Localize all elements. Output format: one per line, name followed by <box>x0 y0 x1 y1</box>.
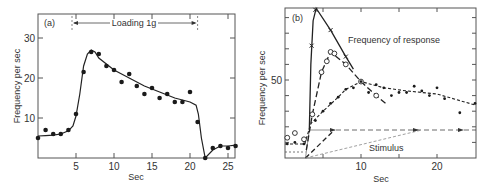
loading-label: Loading 1g <box>112 18 157 28</box>
x-axis-title-b: Sec <box>373 174 389 184</box>
svg-text:20: 20 <box>184 161 196 172</box>
svg-text:25: 25 <box>222 161 234 172</box>
chart-panel-a: 510152025102030 (a) Loading 1g Sec Frequ… <box>12 14 238 182</box>
panel-label-b: (b) <box>292 13 303 23</box>
svg-text:5: 5 <box>73 161 79 172</box>
fitted-curve-a <box>38 50 236 158</box>
loading-annotation: Loading 1g <box>72 16 198 30</box>
svg-text:10: 10 <box>108 161 120 172</box>
y-axis-title-a: Frequency per sec <box>12 48 22 123</box>
response-label: Frequency of response <box>348 35 440 45</box>
svg-text:20: 20 <box>431 161 443 172</box>
data-points-a <box>36 50 238 161</box>
svg-text:10: 10 <box>24 113 36 124</box>
tick-labels-b: 102050 <box>271 75 443 172</box>
chart-panel-b: 102050 (b) Frequency of response Stimulu… <box>257 8 476 184</box>
cross-series-line <box>309 8 353 130</box>
svg-text:10: 10 <box>355 161 367 172</box>
tick-labels-a: 510152025102030 <box>24 33 234 172</box>
axis-ticks-b <box>285 8 476 158</box>
plot-frame-b <box>285 8 476 158</box>
panel-label-a: (a) <box>44 18 55 28</box>
figure: 510152025102030 (a) Loading 1g Sec Frequ… <box>0 0 486 191</box>
y-axis-title-b: Frequency per sec <box>257 50 267 125</box>
stimulus-label: Stimulus <box>369 143 404 153</box>
svg-text:15: 15 <box>146 161 158 172</box>
data-points-b <box>285 8 477 146</box>
svg-text:20: 20 <box>24 73 36 84</box>
svg-text:50: 50 <box>271 75 283 86</box>
svg-text:30: 30 <box>24 33 36 44</box>
x-axis-title-a: Sec <box>128 172 144 182</box>
